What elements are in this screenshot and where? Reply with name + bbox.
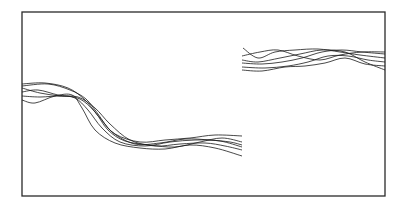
left-segment-trace-5 <box>22 94 242 156</box>
left-segment-trace-1 <box>22 83 242 142</box>
plot-frame <box>22 12 385 196</box>
left-segment-trace-3 <box>22 90 242 147</box>
traces-group <box>22 48 385 156</box>
line-plot <box>0 0 409 208</box>
left-segment-trace-2 <box>22 88 242 150</box>
right-segment-trace-1 <box>243 48 385 58</box>
left-segment-trace-4 <box>22 96 242 147</box>
right-segment <box>242 48 385 71</box>
figure <box>0 0 409 208</box>
left-segment <box>22 83 242 156</box>
